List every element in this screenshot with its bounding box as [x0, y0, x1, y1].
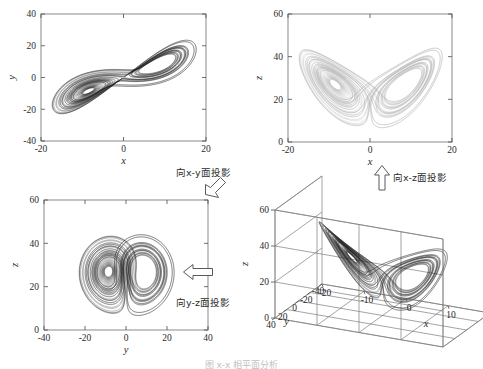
svg-text:60: 60 — [260, 205, 270, 215]
svg-text:0: 0 — [407, 303, 412, 313]
svg-text:y: y — [123, 344, 129, 355]
svg-text:y: y — [283, 316, 289, 327]
svg-text:20: 20 — [30, 282, 40, 292]
svg-text:10: 10 — [446, 310, 456, 320]
svg-text:40: 40 — [266, 320, 276, 330]
arrow-up-icon — [373, 164, 391, 192]
svg-text:60: 60 — [30, 195, 40, 205]
svg-text:0: 0 — [278, 137, 283, 147]
svg-text:x: x — [120, 155, 126, 166]
svg-text:x: x — [367, 156, 373, 167]
svg-text:40: 40 — [27, 9, 37, 19]
svg-text:40: 40 — [260, 241, 270, 251]
figure-caption: 图 x-x 相平面分析 — [0, 358, 483, 369]
svg-text:20: 20 — [162, 333, 172, 343]
svg-text:40: 40 — [30, 239, 40, 249]
svg-text:0: 0 — [34, 325, 39, 335]
chart-xy-projection: -20020-40-2002040xy — [4, 4, 234, 164]
svg-text:40: 40 — [203, 333, 213, 343]
svg-text:60: 60 — [274, 9, 284, 19]
svg-text:-20: -20 — [35, 144, 48, 154]
svg-text:20: 20 — [274, 95, 284, 105]
svg-text:40: 40 — [274, 52, 284, 62]
annotation-xz-text: 向x-z面投影 — [393, 172, 447, 183]
panel-xy-projection: -20020-40-2002040xy — [4, 4, 234, 164]
svg-text:-20: -20 — [319, 288, 332, 298]
svg-text:-20: -20 — [23, 105, 36, 115]
arrow-down-left-icon — [203, 174, 229, 200]
svg-text:-20: -20 — [300, 295, 313, 305]
svg-text:0: 0 — [368, 145, 373, 155]
svg-text:z: z — [9, 263, 20, 268]
svg-text:-10: -10 — [361, 295, 374, 305]
svg-text:z: z — [239, 262, 250, 267]
panel-xz-projection: -200200204060xz — [248, 4, 480, 166]
svg-text:20: 20 — [260, 277, 270, 287]
chart-xz-projection: -200200204060xz — [248, 4, 480, 166]
svg-text:20: 20 — [447, 145, 457, 155]
svg-text:20: 20 — [201, 144, 211, 154]
svg-text:x: x — [423, 318, 429, 329]
svg-text:-40: -40 — [38, 333, 51, 343]
svg-text:0: 0 — [124, 333, 129, 343]
annotation-yz-label: 向y-z面投影 — [176, 295, 230, 309]
arrow-left-icon — [182, 262, 214, 282]
svg-text:y: y — [6, 75, 17, 81]
svg-text:0: 0 — [292, 303, 297, 313]
chart-xyz-3d: 0204060z-40-2002040y-20-1001020x — [232, 188, 483, 354]
svg-text:0: 0 — [31, 73, 36, 83]
svg-text:-40: -40 — [23, 136, 36, 146]
annotation-xz-label: 向x-z面投影 — [393, 170, 447, 184]
svg-text:-20: -20 — [282, 145, 295, 155]
annotation-yz-text: 向y-z面投影 — [176, 297, 230, 308]
svg-text:0: 0 — [121, 144, 126, 154]
svg-text:z: z — [253, 76, 264, 81]
svg-text:-20: -20 — [79, 333, 92, 343]
svg-text:20: 20 — [27, 41, 37, 51]
panel-xyz-3d: 0204060z-40-2002040y-20-1001020x — [232, 188, 483, 354]
